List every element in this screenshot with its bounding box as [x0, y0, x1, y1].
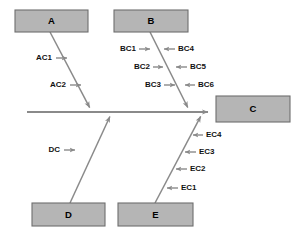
- category-box-C[interactable]: C: [216, 96, 290, 122]
- category-box-E[interactable]: E: [118, 203, 193, 226]
- cause-label-BC5: BC5: [190, 62, 207, 71]
- cause-label-BC2: BC2: [134, 62, 151, 71]
- bone-line-A: [50, 32, 90, 108]
- cause-label-BC4: BC4: [178, 44, 195, 53]
- cause-label-BC6: BC6: [198, 80, 215, 89]
- fishbone-diagram: ABCDE AC1AC2BC1BC2BC3BC4BC5BC6DCEC4EC3EC…: [0, 0, 305, 238]
- category-box-label-E: E: [152, 209, 158, 220]
- cause-label-AC2: AC2: [50, 80, 67, 89]
- cause-label-EC1: EC1: [181, 183, 197, 192]
- cause-ticks-group: [56, 49, 203, 188]
- cause-label-DC: DC: [48, 145, 60, 154]
- cause-label-BC3: BC3: [145, 80, 162, 89]
- fishbone-canvas: ABCDE AC1AC2BC1BC2BC3BC4BC5BC6DCEC4EC3EC…: [0, 0, 305, 238]
- cause-label-EC2: EC2: [190, 164, 206, 173]
- category-box-B[interactable]: B: [114, 10, 188, 32]
- category-box-label-B: B: [148, 15, 155, 26]
- category-box-label-D: D: [65, 209, 72, 220]
- cause-label-BC1: BC1: [120, 44, 137, 53]
- cause-label-EC3: EC3: [199, 147, 215, 156]
- category-box-label-C: C: [250, 103, 257, 114]
- cause-label-AC1: AC1: [36, 53, 53, 62]
- category-box-label-A: A: [48, 15, 55, 26]
- category-box-D[interactable]: D: [32, 203, 105, 226]
- cause-labels-group: AC1AC2BC1BC2BC3BC4BC5BC6DCEC4EC3EC2EC1: [36, 44, 222, 192]
- category-box-A[interactable]: A: [15, 10, 88, 32]
- cause-label-EC4: EC4: [206, 130, 222, 139]
- bones-group: [50, 32, 201, 203]
- bone-line-D: [70, 117, 110, 203]
